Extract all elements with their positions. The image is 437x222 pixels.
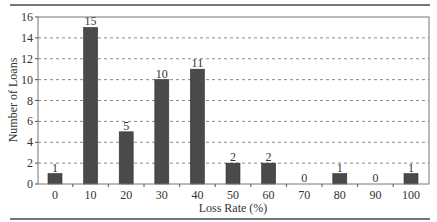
y-tick-label: 16 [21, 10, 33, 24]
x-tick-label: 70 [298, 188, 310, 202]
bar-value-label: 0 [372, 171, 378, 185]
bar-value-label: 1 [337, 161, 343, 175]
bar [262, 163, 276, 184]
bar [226, 163, 240, 184]
y-tick-label: 8 [27, 94, 33, 108]
bar-value-label: 2 [266, 150, 272, 164]
x-tick-label: 90 [369, 188, 381, 202]
x-axis: 0102030405060708090100 [52, 184, 420, 202]
loss-rate-histogram: 11551011220101 0246810121416 01020304050… [0, 0, 437, 222]
bar-value-label: 5 [123, 119, 129, 133]
bar-value-label: 2 [230, 150, 236, 164]
x-tick-label: 80 [334, 188, 346, 202]
y-axis-label: Number of Loans [6, 57, 20, 142]
x-tick-label: 40 [191, 188, 203, 202]
x-axis-label: Loss Rate (%) [199, 201, 268, 215]
bar [333, 174, 347, 184]
y-axis: 0246810121416 [21, 10, 38, 191]
bar [155, 80, 169, 184]
x-tick-label: 60 [263, 188, 275, 202]
bar [48, 174, 62, 184]
x-tick-label: 100 [402, 188, 420, 202]
bar [119, 132, 133, 184]
y-tick-label: 4 [27, 135, 33, 149]
x-tick-label: 50 [227, 188, 239, 202]
bar [404, 174, 418, 184]
y-tick-label: 2 [27, 156, 33, 170]
bars: 11551011220101 [48, 14, 418, 185]
bar-value-label: 10 [156, 67, 168, 81]
bar-value-label: 0 [301, 171, 307, 185]
y-tick-label: 10 [21, 73, 33, 87]
y-tick-label: 0 [27, 177, 33, 191]
x-tick-label: 20 [120, 188, 132, 202]
x-tick-label: 0 [52, 188, 58, 202]
bar-value-label: 1 [408, 161, 414, 175]
bar-value-label: 11 [192, 56, 204, 70]
y-tick-label: 14 [21, 31, 33, 45]
y-tick-label: 12 [21, 52, 33, 66]
x-tick-label: 10 [85, 188, 97, 202]
x-tick-label: 30 [156, 188, 168, 202]
chart-canvas: 11551011220101 0246810121416 01020304050… [0, 0, 437, 222]
bar [190, 69, 204, 184]
bar [84, 27, 98, 184]
y-tick-label: 6 [27, 114, 33, 128]
bar-value-label: 1 [52, 161, 58, 175]
